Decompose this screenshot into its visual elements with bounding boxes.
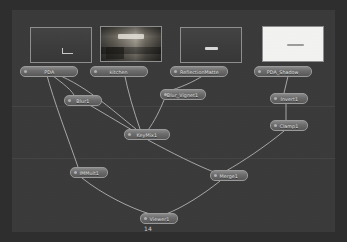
thumbnail-pda[interactable]	[30, 27, 92, 63]
thumbnail-highlight-icon	[118, 34, 144, 39]
node-label-text: KeyMix1	[137, 132, 158, 138]
frame-counter-label: 14	[144, 225, 152, 232]
thumbnail-kitchen[interactable]	[100, 26, 162, 62]
node-label-text: Clamp1	[280, 123, 299, 129]
thumbnail-reflectionmatte[interactable]	[180, 27, 242, 63]
op-node-clamp1[interactable]: Clamp1	[270, 120, 308, 131]
link-immult1-viewer1	[82, 178, 150, 214]
thumbnail-pda-shadow[interactable]	[262, 26, 324, 62]
read-node-pda-shadow[interactable]	[262, 26, 324, 62]
node-label-text: kitchen	[110, 69, 128, 75]
op-node-merge1[interactable]: Merge1	[210, 170, 248, 181]
read-node-label-pda-shadow[interactable]: PDA_Shadow	[254, 66, 312, 77]
canvas-divider-band	[12, 106, 335, 107]
link-kitchen-keymix1	[124, 72, 140, 129]
thumbnail-shape-icon	[106, 47, 124, 59]
node-label-text: Blur_Vignet1	[167, 92, 198, 98]
node-label-text: ReflectionMatte	[180, 69, 219, 75]
node-label-text: PDA_Shadow	[267, 69, 299, 75]
node-label-text: Viewer1	[149, 216, 169, 222]
read-node-label-reflectionmatte[interactable]: ReflectionMatte	[170, 66, 228, 77]
op-node-keymix1[interactable]: KeyMix1	[124, 129, 170, 140]
read-node-kitchen[interactable]	[100, 26, 162, 62]
op-node-blur1[interactable]: Blur1	[64, 95, 102, 106]
op-node-invert1[interactable]: Invert1	[270, 93, 308, 104]
read-node-reflectionmatte[interactable]	[180, 27, 242, 63]
link-pda-immult1	[46, 72, 78, 167]
op-node-blur-vignet1[interactable]: Blur_Vignet1	[160, 89, 206, 100]
read-node-label-pda[interactable]: PDA	[20, 66, 78, 77]
node-label-text: IMMult1	[79, 170, 98, 176]
link-clamp1-merge1	[226, 131, 284, 171]
node-label-text: Merge1	[220, 173, 238, 179]
op-node-viewer1[interactable]: Viewer1	[140, 213, 178, 224]
link-blurvignet1-keymix1	[148, 100, 164, 130]
link-merge1-viewer1	[166, 181, 220, 214]
thumbnail-highlight-icon	[287, 44, 304, 46]
node-graph-application: PDA kitchen ReflectionMatte PDA_	[0, 0, 347, 242]
thumbnail-shape-icon	[62, 48, 73, 54]
link-keymix1-merge1	[148, 140, 214, 172]
thumbnail-highlight-icon	[205, 47, 218, 50]
node-graph-canvas[interactable]: PDA kitchen ReflectionMatte PDA_	[12, 10, 335, 232]
op-node-immult1[interactable]: IMMult1	[70, 167, 108, 178]
node-label-text: Invert1	[280, 96, 298, 102]
link-blur1-keymix1	[86, 103, 132, 130]
node-label-text: Blur1	[76, 98, 89, 104]
read-node-pda[interactable]	[30, 27, 92, 63]
canvas-divider-band	[12, 158, 335, 159]
read-node-label-kitchen[interactable]: kitchen	[90, 66, 148, 77]
node-label-text: PDA	[44, 69, 54, 75]
